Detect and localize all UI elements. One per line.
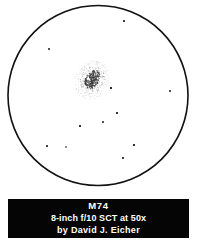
galaxy-stipple-dot (107, 81, 108, 82)
galaxy-stipple-dot (86, 88, 87, 89)
galaxy-stipple-dot (79, 74, 80, 75)
galaxy-stipple-dot (107, 75, 108, 76)
galaxy-stipple-dot (100, 68, 101, 69)
galaxy-stipple-dot (79, 72, 80, 73)
galaxy-core-dot (87, 75, 88, 76)
galaxy-core-dot (95, 73, 96, 74)
galaxy-stipple-dot (81, 72, 82, 73)
galaxy-stipple-dot (108, 85, 109, 86)
galaxy-stipple-dot (107, 85, 108, 86)
galaxy-stipple-dot (102, 84, 103, 85)
caption-observer-credit: by David J. Eicher (8, 224, 189, 236)
galaxy-core-dot (90, 85, 91, 86)
galaxy-stipple-dot (85, 73, 86, 74)
galaxy-stipple-dot (106, 71, 107, 72)
galaxy-core-dot (91, 81, 92, 82)
galaxy-stipple-dot (104, 79, 105, 80)
galaxy-stipple-dot (76, 88, 77, 89)
galaxy-stipple-dot (104, 77, 105, 78)
galaxy-stipple-dot (82, 74, 83, 75)
galaxy-stipple-dot (94, 98, 95, 99)
galaxy-stipple-dot (78, 74, 79, 75)
galaxy-stipple-dot (96, 61, 97, 62)
galaxy-core-dot (89, 86, 90, 87)
galaxy-stipple-dot (84, 74, 85, 75)
galaxy-stipple-dot (109, 82, 110, 83)
galaxy-stipple-dot (93, 93, 94, 94)
galaxy-stipple-dot (88, 70, 89, 71)
galaxy-stipple-dot (102, 88, 103, 89)
galaxy-stipple-dot (103, 93, 104, 94)
galaxy-stipple-dot (83, 84, 84, 85)
field-star (133, 144, 135, 146)
galaxy-stipple-dot (89, 96, 90, 97)
galaxy-stipple-dot (77, 79, 78, 80)
galaxy-stipple-dot (96, 63, 97, 64)
galaxy-stipple-dot (105, 72, 106, 73)
galaxy-core-dot (93, 83, 94, 84)
galaxy-stipple-dot (78, 76, 79, 77)
galaxy-stipple-dot (92, 96, 93, 97)
galaxy-stipple-dot (97, 92, 98, 93)
galaxy-stipple-dot (83, 87, 84, 88)
galaxy-stipple-dot (100, 62, 101, 63)
galaxy-stipple-dot (84, 93, 85, 94)
galaxy-core-dot (96, 83, 97, 84)
galaxy-stipple-dot (106, 83, 107, 84)
galaxy-core-dot (93, 75, 94, 76)
galaxy-core-dot (96, 79, 97, 80)
galaxy-stipple-dot (94, 98, 95, 99)
galaxy-stipple-dot (75, 81, 76, 82)
galaxy-core-dot (93, 73, 94, 74)
galaxy-stipple-dot (99, 95, 100, 96)
galaxy-stipple-dot (99, 81, 100, 82)
field-star (169, 90, 171, 92)
galaxy-stipple-dot (82, 96, 83, 97)
galaxy-stipple-dot (104, 81, 105, 82)
galaxy-stipple-dot (97, 96, 98, 97)
galaxy-stipple-dot (89, 71, 90, 72)
galaxy-stipple-dot (89, 93, 90, 94)
galaxy-stipple-dot (76, 85, 77, 86)
galaxy-stipple-dot (96, 62, 97, 63)
galaxy-stipple-dot (86, 90, 87, 91)
galaxy-stipple-dot (105, 76, 106, 77)
galaxy-stipple-dot (84, 65, 85, 66)
galaxy-stipple-dot (84, 96, 85, 97)
galaxy-stipple-dot (104, 87, 105, 88)
galaxy-stipple-dot (85, 98, 86, 99)
galaxy-stipple-dot (96, 96, 97, 97)
galaxy-stipple-dot (89, 62, 90, 63)
galaxy-stipple-dot (82, 67, 83, 68)
galaxy-stipple-dot (81, 84, 82, 85)
galaxy-stipple-dot (104, 71, 105, 72)
galaxy-stipple-dot (88, 71, 89, 72)
galaxy-stipple-dot (102, 65, 103, 66)
field-star (65, 146, 67, 148)
galaxy-stipple-dot (104, 64, 105, 65)
galaxy-stipple-dot (81, 69, 82, 70)
galaxy-stipple-dot (78, 91, 79, 92)
galaxy-stipple-dot (109, 77, 110, 78)
galaxy-core-dot (87, 86, 88, 87)
galaxy-stipple-dot (87, 80, 88, 81)
galaxy-stipple-dot (106, 81, 107, 82)
galaxy-stipple-dot (103, 78, 104, 79)
galaxy-stipple-dot (94, 81, 95, 82)
galaxy-core-dot (96, 70, 97, 71)
galaxy-stipple-dot (89, 99, 90, 100)
galaxy-core-dot (92, 79, 93, 80)
galaxy-stipple-dot (102, 82, 103, 83)
galaxy-stipple-dot (86, 95, 87, 96)
galaxy-core-dot (89, 85, 90, 86)
galaxy-stipple-dot (101, 90, 102, 91)
sketch-background (0, 0, 197, 192)
galaxy-stipple-dot (101, 65, 102, 66)
galaxy-stipple-dot (98, 89, 99, 90)
galaxy-stipple-dot (106, 66, 107, 67)
galaxy-stipple-dot (90, 63, 91, 64)
galaxy-stipple-dot (93, 90, 94, 91)
galaxy-stipple-dot (101, 71, 102, 72)
galaxy-stipple-dot (81, 82, 82, 83)
field-star (110, 87, 112, 89)
